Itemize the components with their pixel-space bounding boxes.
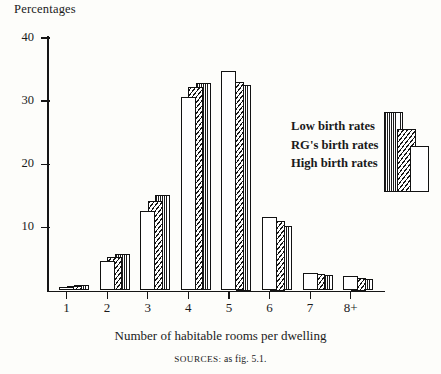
x-axis-tick — [107, 292, 108, 299]
y-axis-tick — [41, 100, 50, 101]
source-reference: as fig. 5.1. — [221, 353, 266, 364]
bar-plain — [59, 287, 74, 291]
x-axis-tick-label: 7 — [295, 300, 325, 316]
bar-plain — [181, 97, 196, 290]
bar-plain — [262, 217, 277, 290]
x-axis-tick — [310, 292, 311, 299]
source-note: SOURCES: as fig. 5.1. — [0, 353, 441, 364]
x-axis-tick-label: 5 — [214, 300, 244, 316]
legend-item-3: High birth rates — [291, 154, 378, 173]
legend: Low birth ratesRG's birth ratesHigh birt… — [291, 117, 378, 173]
x-axis-tick-label: 2 — [92, 300, 122, 316]
x-axis-tick — [228, 292, 229, 299]
y-axis-tick-label: 40 — [10, 31, 34, 43]
y-axis-tick-label: 10 — [10, 220, 34, 232]
legend-swatch-plain — [410, 146, 429, 192]
x-axis-line — [47, 291, 385, 293]
bar-plain — [303, 273, 318, 291]
bar-plain — [343, 276, 358, 291]
y-axis-tick-label: 30 — [10, 94, 34, 106]
x-axis-tick-label: 6 — [255, 300, 285, 316]
x-axis-tick-label: 1 — [52, 300, 82, 316]
y-axis-tick — [41, 37, 50, 38]
legend-item-2: RG's birth rates — [291, 136, 378, 155]
legend-item-1: Low birth rates — [291, 117, 378, 136]
x-axis-title: Number of habitable rooms per dwelling — [0, 328, 441, 344]
y-axis-tick — [41, 227, 50, 228]
bar-plain — [140, 211, 155, 291]
x-axis-tick-label: 3 — [133, 300, 163, 316]
x-axis-tick — [269, 292, 270, 299]
x-axis-tick — [350, 292, 351, 299]
x-axis-tick-label: 8+ — [336, 300, 366, 316]
bar-plain — [100, 261, 115, 290]
y-axis-tick-label: 20 — [10, 157, 34, 169]
x-axis-tick-label: 4 — [173, 300, 203, 316]
x-axis-tick — [147, 292, 148, 299]
bar-plain — [221, 71, 236, 290]
y-axis-tick — [41, 164, 50, 165]
figure-container: Percentages 10203040 12345678+ Low birth… — [0, 0, 441, 374]
y-axis-caption: Percentages — [14, 2, 76, 17]
x-axis-tick — [188, 292, 189, 299]
legend-swatches — [384, 112, 438, 192]
source-prefix: SOURCES: — [174, 354, 221, 364]
x-axis-tick — [66, 292, 67, 299]
